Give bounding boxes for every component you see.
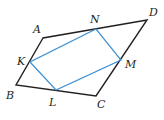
vertex-label-a: A — [32, 23, 41, 36]
geometry-diagram: A B C D K L M N — [0, 0, 164, 120]
midpoint-label-k: K — [16, 55, 26, 68]
midpoint-label-n: N — [89, 13, 100, 26]
vertex-label-b: B — [5, 89, 14, 102]
vertex-label-c: C — [97, 98, 106, 111]
midpoint-label-l: L — [48, 96, 56, 109]
vertex-label-d: D — [148, 6, 158, 19]
midpoint-label-m: M — [124, 58, 137, 71]
